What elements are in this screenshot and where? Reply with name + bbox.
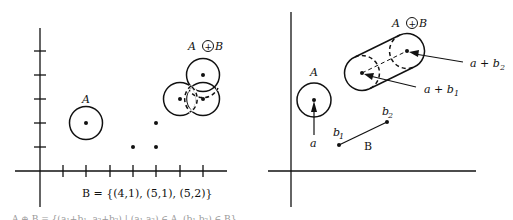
left-caption-set-B: B = {(4,1), (5,1), (5,2)}: [82, 187, 213, 200]
right-panel: [268, 12, 476, 207]
right-label-a-plus-b1: a + b: [424, 83, 454, 96]
left-label-A-oplus-B: B: [214, 40, 223, 53]
left-footer-partial: A ⊕ B = {(a₁+b₁, a₂+b₂) | (a₁,a₂) ∈ A, (…: [11, 214, 236, 220]
left-minkowski-sum: [164, 59, 220, 116]
right-label-a: a: [310, 137, 317, 150]
left-label-A-oplus-A: A: [187, 40, 196, 53]
right-label-A-oplus-B: B: [418, 17, 427, 30]
set-B-point-5-2: [154, 121, 158, 125]
left-panel: [15, 28, 227, 207]
minkowski-sum-figure: A A + B B = {(4,1), (5,1), (5,2)} A ⊕ B …: [0, 0, 513, 220]
right-label-b2-sub: 2: [387, 111, 393, 120]
left-label-A: A: [81, 93, 90, 106]
vector-a-arrowhead: [311, 101, 317, 112]
right-label-a-plus-b2: a + b: [470, 57, 500, 70]
point-a-plus-b2: [405, 49, 409, 53]
segment-B: [339, 122, 387, 145]
right-label-a-plus-b1-sub: 1: [454, 89, 459, 98]
right-minkowski-sum-capsule: [345, 34, 425, 91]
left-disk-A-center: [84, 121, 88, 125]
right-label-A: A: [309, 66, 318, 79]
right-label-b1-sub: 1: [339, 132, 344, 141]
set-B-point-5-1: [154, 145, 158, 149]
point-b2: [385, 120, 389, 124]
right-label-a-plus-b2-sub: 2: [499, 63, 505, 72]
point-a-plus-b1: [360, 71, 364, 75]
right-label-B: B: [364, 140, 372, 153]
right-label-A-oplus-A: A: [391, 17, 400, 30]
point-b1: [337, 143, 341, 147]
right-label-oplus-sign: +: [409, 19, 417, 29]
set-B-point-4-1: [131, 145, 135, 149]
left-label-oplus-sign: +: [205, 42, 213, 52]
